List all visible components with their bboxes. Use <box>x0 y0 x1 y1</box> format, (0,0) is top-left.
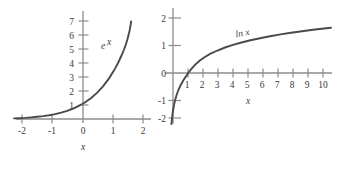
left-y-tick-label-5: 5 <box>69 45 74 55</box>
left-curve-label-base: e <box>101 41 105 51</box>
left-x-tick-label-2: 2 <box>141 126 146 136</box>
plot-exponential: 1 2 3 4 5 6 7 -2 -1 0 1 2 x e x <box>14 11 151 152</box>
right-x-tick-label-3: 3 <box>215 80 220 90</box>
right-x-tick-label-9: 9 <box>305 80 310 90</box>
left-curve-label-exponent: x <box>106 37 112 47</box>
left-y-tick-label-3: 3 <box>69 73 74 83</box>
right-x-tick-label-10: 10 <box>318 80 328 90</box>
right-x-tick-label-6: 6 <box>260 80 265 90</box>
right-x-tick-label-4: 4 <box>230 80 235 90</box>
left-y-tick-label-7: 7 <box>69 17 74 27</box>
left-x-axis-label: x <box>80 142 86 152</box>
right-x-tick-label-5: 5 <box>245 80 250 90</box>
plot-logarithm: 2 1 0 -1 -2 1 2 3 4 5 6 7 8 9 10 x ln x <box>158 8 332 124</box>
right-x-tick-label-1: 1 <box>185 80 190 90</box>
right-x-tick-label-8: 8 <box>290 80 295 90</box>
right-y-tick-label--2: -2 <box>158 114 166 124</box>
right-x-tick-label-7: 7 <box>275 80 280 90</box>
right-x-axis-label: x <box>245 96 251 106</box>
left-x-tick-label--1: -1 <box>48 126 56 136</box>
left-x-tick-label-1: 1 <box>111 126 116 136</box>
figure-canvas: 1 2 3 4 5 6 7 -2 -1 0 1 2 x e x <box>0 0 341 171</box>
left-x-tick-label--2: -2 <box>18 126 26 136</box>
right-curve-label: ln x <box>235 27 251 39</box>
two-plot-figure: 1 2 3 4 5 6 7 -2 -1 0 1 2 x e x <box>0 0 341 171</box>
left-curve-label-group: e x <box>101 37 112 51</box>
left-y-tick-label-4: 4 <box>69 59 74 69</box>
right-x-tick-label-2: 2 <box>200 80 205 90</box>
right-y-tick-label--1: -1 <box>158 96 166 106</box>
left-y-tick-label-2: 2 <box>69 87 74 97</box>
right-y-tick-label-0: 0 <box>161 69 166 79</box>
left-y-tick-label-6: 6 <box>69 31 74 41</box>
right-y-tick-label-1: 1 <box>161 41 166 51</box>
left-x-tick-label-0: 0 <box>81 126 86 136</box>
right-y-tick-label-2: 2 <box>161 14 166 24</box>
right-curve-logarithm <box>171 28 331 124</box>
